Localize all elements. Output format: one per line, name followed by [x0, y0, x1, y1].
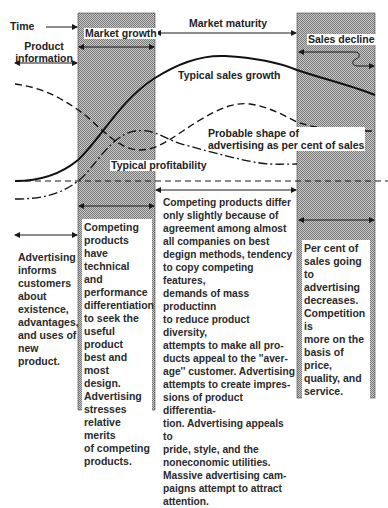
text-line: basis of price, [304, 346, 368, 372]
text-line: tion. Advertising appeals to [163, 417, 295, 443]
text-line: Competing [84, 221, 150, 234]
text-line: only slightly because of [163, 209, 295, 222]
text-line: relative merits [84, 416, 150, 442]
text-line: Massive advertising cam- [163, 469, 295, 482]
text-line: to copy competing features, [163, 261, 295, 287]
text-line: differentiation [84, 299, 150, 312]
stage1-description: Advertising informs customers about exis… [18, 251, 80, 368]
time-label: Time [10, 21, 34, 32]
text-line: performance [84, 286, 150, 299]
text-line: sions of product differentia- [163, 391, 295, 417]
text-line: useful product [84, 325, 150, 351]
text-line: ducts appeal to the ''aver- [163, 352, 295, 365]
text-line: sales going to [304, 255, 368, 281]
text-line: to seek the [84, 312, 150, 325]
stage2-description: Competing products have technical and pe… [82, 219, 152, 470]
text-line: and uses of [18, 329, 80, 342]
text-line: decreases. [304, 294, 368, 307]
text-line: quality, and [304, 372, 368, 385]
product-information-label: Product information [14, 40, 74, 64]
text-line: agreement among almost [163, 222, 295, 235]
stage3-description: Competing products differ only slightly … [163, 196, 295, 508]
text-line: attempts to make all pro- [163, 339, 295, 352]
text-line: Per cent of [304, 242, 368, 255]
text-line: degign methods, tendency [163, 248, 295, 261]
text-line: of competing [84, 442, 150, 455]
text-line: products. [84, 455, 150, 468]
text-line: informs [18, 264, 80, 277]
advertising-label-line2: advertising as per cent of sales [208, 139, 364, 151]
text-line: attempts to create impres- [163, 378, 295, 391]
text-line: existence, [18, 303, 80, 316]
text-line: customers [18, 277, 80, 290]
sales-decline-label: Sales decline [307, 34, 376, 45]
text-line: service. [304, 385, 368, 398]
text-line: paigns attempt to attract [163, 482, 295, 495]
text-line: advertising [304, 281, 368, 294]
advertising-curve-label: Probable shape of advertising as per cen… [207, 127, 365, 151]
text-line: noneconomic utilities. [163, 456, 295, 469]
text-line: best and most [84, 351, 150, 377]
market-maturity-label: Market maturity [189, 18, 267, 29]
text-line: design. [84, 377, 150, 390]
text-line: new product. [18, 342, 80, 368]
text-line: more on the [304, 333, 368, 346]
stage4-description: Per cent of sales going to advertising d… [302, 240, 370, 400]
text-line: Advertising [84, 390, 150, 403]
text-line: Competition is [304, 307, 368, 333]
text-line: advantages, [18, 316, 80, 329]
text-line: to reduce product diversity, [163, 313, 295, 339]
text-line: stresses [84, 403, 150, 416]
advertising-label-line1: Probable shape of [208, 127, 364, 139]
market-growth-label: Market growth [84, 28, 158, 39]
product-information-line1: Product [14, 40, 74, 52]
text-line: pride, style, and the [163, 443, 295, 456]
text-line: Competing products differ [163, 196, 295, 209]
text-line: attention. [163, 495, 295, 508]
sales-curve-label: Typical sales growth [178, 70, 281, 81]
text-line: age'' customer. Advertising [163, 365, 295, 378]
text-line: about [18, 290, 80, 303]
text-line: demands of mass productinn [163, 287, 295, 313]
text-line: Advertising [18, 251, 80, 264]
product-information-line2: information [14, 52, 74, 64]
text-line: all companies on best [163, 235, 295, 248]
text-line: products have [84, 234, 150, 260]
text-line: technical and [84, 260, 150, 286]
profitability-curve-label: Typical profitability [110, 160, 207, 171]
